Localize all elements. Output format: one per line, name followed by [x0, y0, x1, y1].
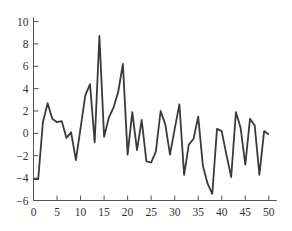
y-tick-label: 0 [23, 127, 29, 139]
y-tick-label: 10 [17, 16, 29, 28]
x-tick-label: 25 [145, 206, 157, 218]
plot-area [34, 36, 269, 194]
x-tick-label: 20 [122, 206, 134, 218]
y-axis: −6−4−20246810 [16, 16, 38, 207]
x-tick-label: 50 [263, 206, 275, 218]
y-tick-label: 6 [23, 60, 29, 72]
y-tick-label: −2 [16, 150, 28, 162]
x-tick-label: 5 [54, 206, 60, 218]
x-axis: 05101520253035404550 [31, 196, 277, 218]
line-chart: −6−4−20246810 05101520253035404550 [0, 0, 292, 231]
y-tick-label: 4 [23, 83, 29, 95]
x-tick-label: 45 [240, 206, 252, 218]
y-tick-label: 2 [23, 105, 29, 117]
x-tick-label: 15 [98, 206, 110, 218]
x-tick-label: 35 [192, 206, 204, 218]
x-tick-label: 40 [216, 206, 228, 218]
x-tick-label: 30 [169, 206, 181, 218]
y-tick-label: −6 [16, 195, 28, 207]
x-tick-label: 0 [31, 206, 37, 218]
y-tick-label: 8 [23, 38, 29, 50]
y-tick-label: −4 [16, 172, 28, 184]
x-tick-label: 10 [75, 206, 87, 218]
data-line [34, 36, 269, 194]
